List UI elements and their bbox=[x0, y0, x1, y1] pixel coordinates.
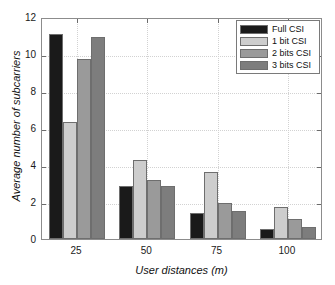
bar bbox=[49, 34, 63, 239]
x-tick-label: 50 bbox=[141, 246, 152, 256]
x-axis-title: User distances (m) bbox=[41, 264, 322, 276]
legend-swatch bbox=[240, 25, 268, 34]
legend-label: 3 bits CSI bbox=[272, 61, 311, 70]
bar bbox=[232, 211, 246, 239]
legend-swatch bbox=[240, 49, 268, 58]
bar bbox=[302, 227, 316, 239]
legend-item: 2 bits CSI bbox=[240, 48, 316, 58]
y-tick-mark bbox=[42, 93, 46, 94]
bar-chart-figure: 024681012 255075100 User distances (m) A… bbox=[0, 0, 335, 285]
bar bbox=[147, 180, 161, 239]
y-tick-label: 0 bbox=[30, 235, 36, 245]
legend-label: Full CSI bbox=[272, 25, 304, 34]
y-tick-mark-right bbox=[317, 93, 321, 94]
y-tick-mark-right bbox=[317, 130, 321, 131]
legend-swatch bbox=[240, 37, 268, 46]
x-tick-label: 100 bbox=[279, 246, 296, 256]
bar bbox=[274, 207, 288, 239]
bar bbox=[161, 186, 175, 239]
legend-item: 1 bit CSI bbox=[240, 36, 316, 46]
y-tick-label: 4 bbox=[30, 161, 36, 171]
y-tick-label: 10 bbox=[25, 50, 36, 60]
x-tick-label: 25 bbox=[71, 246, 82, 256]
y-tick-mark bbox=[42, 167, 46, 168]
bar bbox=[204, 172, 218, 239]
y-tick-mark bbox=[42, 204, 46, 205]
bar bbox=[133, 160, 147, 239]
bar bbox=[91, 37, 105, 239]
y-tick-mark-right bbox=[317, 204, 321, 205]
bar bbox=[119, 186, 133, 239]
bar bbox=[190, 213, 204, 239]
legend-swatch bbox=[240, 61, 268, 70]
y-tick-label: 12 bbox=[25, 13, 36, 23]
bar bbox=[218, 203, 232, 239]
bar bbox=[63, 122, 77, 239]
bar bbox=[288, 219, 302, 239]
x-tick-mark-top bbox=[147, 19, 148, 23]
y-tick-mark-right bbox=[317, 167, 321, 168]
y-axis-title: Average number of subcarriers bbox=[10, 46, 22, 206]
legend: Full CSI1 bit CSI2 bits CSI3 bits CSI bbox=[236, 20, 320, 74]
y-tick-mark bbox=[42, 130, 46, 131]
legend-item: 3 bits CSI bbox=[240, 60, 316, 70]
y-tick-label: 2 bbox=[30, 198, 36, 208]
y-tick-label: 6 bbox=[30, 124, 36, 134]
bar bbox=[77, 59, 91, 239]
legend-label: 2 bits CSI bbox=[272, 49, 311, 58]
legend-item: Full CSI bbox=[240, 24, 316, 34]
x-tick-label: 75 bbox=[211, 246, 222, 256]
y-tick-mark bbox=[42, 56, 46, 57]
x-tick-mark-top bbox=[77, 19, 78, 23]
bar bbox=[260, 229, 274, 239]
x-tick-mark-top bbox=[218, 19, 219, 23]
legend-label: 1 bit CSI bbox=[272, 37, 307, 46]
y-tick-label: 8 bbox=[30, 87, 36, 97]
